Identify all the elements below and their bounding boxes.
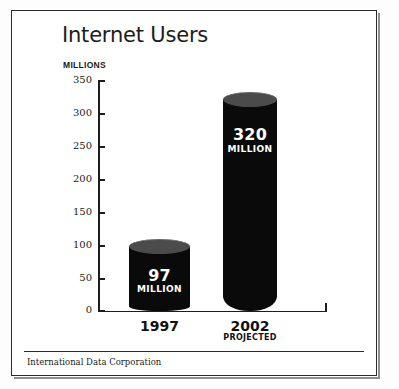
- y-tick-label: 300: [50, 107, 92, 118]
- bar-1997: 97 MILLION: [129, 239, 190, 311]
- source-divider: [24, 351, 364, 352]
- bar-value-label: 320: [223, 125, 277, 144]
- y-tick-label: 0: [50, 304, 92, 315]
- bar-unit-label: MILLION: [129, 284, 190, 294]
- y-tick-mark: [99, 245, 105, 247]
- bar-unit-label: MILLION: [223, 144, 277, 154]
- bar-value-label: 97: [129, 266, 190, 285]
- chart-title: Internet Users: [62, 23, 208, 47]
- y-tick-mark: [99, 278, 105, 280]
- x-category-sublabel-projected: PROJECTED: [216, 333, 284, 342]
- x-category-label-1997: 1997: [129, 318, 190, 334]
- bar-2002: 320 MILLION: [223, 92, 277, 311]
- y-tick-mark: [99, 212, 105, 214]
- y-axis-unit-label: MILLIONS: [63, 60, 106, 70]
- y-tick-label: 150: [50, 206, 92, 217]
- y-tick-label: 200: [50, 173, 92, 184]
- y-tick-label: 100: [50, 239, 92, 250]
- x-category-label-2002: 2002: [216, 318, 284, 334]
- y-tick-mark: [99, 113, 105, 115]
- bar-top-ellipse: [223, 92, 277, 107]
- x-axis-end-tick: [325, 303, 327, 311]
- y-tick-mark: [99, 146, 105, 148]
- y-tick-mark: [99, 310, 105, 312]
- chart-frame: Internet Users MILLIONS 350 300 250 200 …: [11, 10, 377, 376]
- y-tick-mark: [99, 179, 105, 181]
- y-tick-label: 250: [50, 140, 92, 151]
- chart-figure: Internet Users MILLIONS 350 300 250 200 …: [0, 0, 399, 389]
- bar-top-ellipse: [129, 239, 190, 254]
- source-credit: International Data Corporation: [27, 357, 161, 367]
- chart-plot-area: Internet Users MILLIONS 350 300 250 200 …: [12, 11, 376, 375]
- y-tick-label: 50: [50, 272, 92, 283]
- y-tick-label: 350: [50, 74, 92, 85]
- y-tick-mark: [99, 80, 105, 82]
